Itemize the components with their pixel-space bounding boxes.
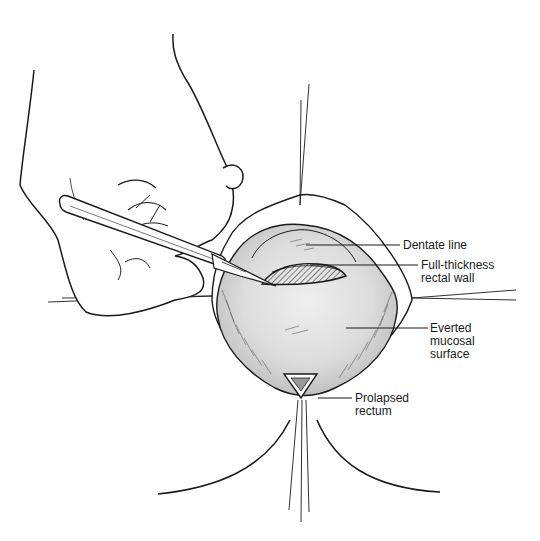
label-text: Dentate line (403, 239, 467, 252)
perineum-outline (158, 420, 440, 494)
hand (20, 34, 243, 316)
label-text: rectum (355, 405, 409, 418)
label-prolapsed-rectum: Prolapsed rectum (355, 392, 409, 418)
label-text: rectal wall (421, 272, 494, 285)
label-dentate-line: Dentate line (403, 239, 467, 252)
label-everted-mucosal-surface: Everted mucosal surface (430, 322, 475, 361)
label-full-thickness-rectal-wall: Full-thickness rectal wall (421, 259, 494, 285)
label-text: surface (430, 348, 475, 361)
